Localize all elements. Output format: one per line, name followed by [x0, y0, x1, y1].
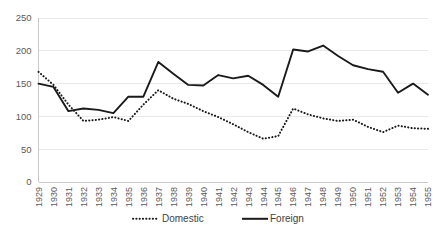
series-line-foreign — [39, 46, 429, 114]
x-axis-labels-group: 1929193019311932193319341935193619371938… — [34, 187, 434, 207]
x-axis-tick-label: 1929 — [34, 187, 44, 207]
x-axis-tick-label: 1951 — [363, 187, 373, 207]
y-axis-tick-label: 200 — [16, 45, 32, 56]
x-axis-tick-label: 1934 — [109, 187, 119, 207]
gridlines-group — [39, 18, 429, 149]
y-axis-tick-label: 100 — [16, 111, 32, 122]
x-axis-tick-label: 1943 — [244, 187, 254, 207]
series-group — [39, 46, 429, 139]
x-axis-tick-label: 1944 — [259, 187, 269, 207]
y-axis-labels-group: 050100150200250 — [16, 12, 32, 187]
x-axis-tick-label: 1939 — [184, 187, 194, 207]
x-axis-tick-label: 1945 — [273, 187, 283, 207]
x-axis-tick-label: 1952 — [378, 187, 388, 207]
y-axis-tick-label: 250 — [16, 12, 32, 23]
x-axis-tick-label: 1941 — [214, 187, 224, 207]
x-axis-tick-label: 1955 — [423, 187, 433, 207]
x-axis-tick-label: 1932 — [79, 187, 89, 207]
x-axis-tick-label: 1931 — [64, 187, 74, 207]
x-axis-tick-label: 1933 — [94, 187, 104, 207]
x-axis-tick-label: 1954 — [408, 187, 418, 207]
x-axis-tick-label: 1948 — [318, 187, 328, 207]
chart-canvas: 050100150200250 192919301931193219331934… — [0, 0, 436, 235]
legend-group: Domestic Foreign — [133, 213, 304, 224]
x-axis-tick-label: 1946 — [288, 187, 298, 207]
x-axis-tick-label: 1935 — [124, 187, 134, 207]
x-axis-tick-label: 1938 — [169, 187, 179, 207]
x-axis-tick-label: 1940 — [199, 187, 209, 207]
x-axis-tick-label: 1947 — [303, 187, 313, 207]
x-axis-tick-label: 1953 — [393, 187, 403, 207]
axis-lines-group — [39, 18, 429, 182]
x-axis-tick-label: 1930 — [49, 187, 59, 207]
series-line-domestic — [39, 72, 429, 139]
legend-label-domestic: Domestic — [162, 213, 204, 224]
y-axis-tick-label: 0 — [26, 176, 31, 187]
legend-label-foreign: Foreign — [270, 213, 304, 224]
x-axis-tick-label: 1937 — [154, 187, 164, 207]
line-chart-figure: 050100150200250 192919301931193219331934… — [0, 0, 436, 235]
x-axis-tick-label: 1936 — [139, 187, 149, 207]
y-axis-tick-label: 150 — [16, 78, 32, 89]
x-axis-tick-label: 1950 — [348, 187, 358, 207]
x-axis-tick-label: 1942 — [229, 187, 239, 207]
x-axis-tick-label: 1949 — [333, 187, 343, 207]
y-axis-tick-label: 50 — [21, 144, 32, 155]
